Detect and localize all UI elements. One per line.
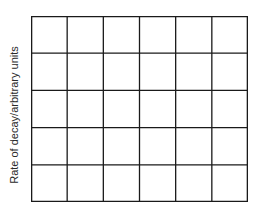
grid-lines [31,16,248,202]
plot-grid [31,16,248,202]
y-axis-label: Rate of decay/arbitrary units [8,46,20,184]
